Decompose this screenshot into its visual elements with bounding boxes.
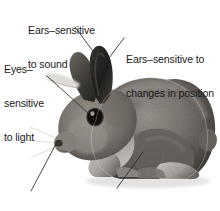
label-ears-balance: Ears–sensitive to changes in position xyxy=(126,31,214,122)
label-eyes-line3: to light xyxy=(4,132,44,143)
label-ears-balance-line2: changes in position xyxy=(126,88,214,99)
label-skin: Skin–sensitive to touch, pressure, pain xyxy=(118,191,214,211)
label-nose-tongue: Nose and tongue– sensitive to chemicals xyxy=(3,194,103,211)
label-eyes-line2: sensitive xyxy=(4,98,44,109)
label-eyes-line1: Eyes– xyxy=(4,64,44,75)
label-ears-sound-line1: Ears–sensitive xyxy=(28,25,95,36)
label-eyes: Eyes– sensitive to light xyxy=(4,41,44,166)
rabbit-senses-diagram: Ears–sensitive to sound Ears–sensitive t… xyxy=(0,0,220,211)
label-ears-balance-line1: Ears–sensitive to xyxy=(126,54,214,65)
